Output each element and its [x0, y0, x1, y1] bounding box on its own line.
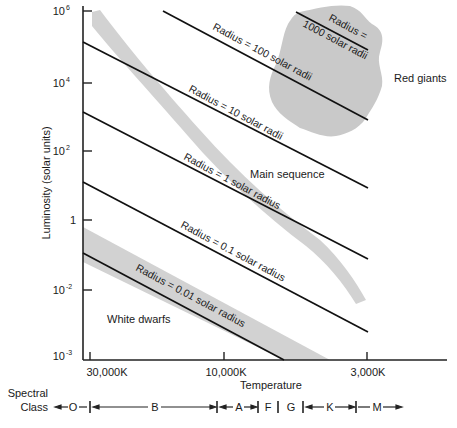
spectral-class-A: A [235, 401, 243, 413]
x-axis-label: Temperature [240, 379, 302, 391]
svg-text:10: 10 [53, 5, 65, 17]
main-sequence-label: Main sequence [250, 168, 325, 180]
spectral-class-F: F [265, 401, 272, 413]
spectral-class-M: M [372, 401, 381, 413]
svg-text:Class: Class [20, 401, 48, 413]
svg-text:-3: -3 [66, 349, 72, 356]
svg-text:10: 10 [53, 350, 65, 362]
svg-text:30,000K: 30,000K [87, 366, 129, 378]
svg-text:4: 4 [66, 76, 70, 83]
radius-0.01-line [83, 253, 284, 360]
radius-0.1-label: Radius = 0.1 solar radius [179, 218, 287, 283]
svg-text:2: 2 [66, 144, 70, 151]
svg-text:6: 6 [66, 4, 70, 11]
y-tick-labels: 10 6 10 4 10 2 1 10 -2 10 -3 [53, 4, 76, 362]
red-giants-label: Red giants [394, 72, 447, 84]
radius-1-label: Radius = 1 solar radius [182, 150, 283, 211]
svg-text:10: 10 [53, 77, 65, 89]
svg-text:10: 10 [53, 145, 65, 157]
spectral-class-B: B [151, 401, 158, 413]
white-dwarfs-label: White dwarfs [107, 313, 171, 325]
svg-text:-2: -2 [66, 283, 72, 290]
spectral-class-O: O [69, 401, 78, 413]
svg-text:10,000K: 10,000K [206, 366, 248, 378]
x-tick-labels: 30,000K 10,000K 3,000K [87, 366, 387, 378]
svg-text:3,000K: 3,000K [351, 366, 387, 378]
hr-diagram: 10 6 10 4 10 2 1 10 -2 10 -3 Luminosity … [0, 0, 457, 428]
svg-text:10: 10 [53, 284, 65, 296]
spectral-class-K: K [326, 401, 334, 413]
y-axis-label: Luminosity (solar units) [40, 126, 52, 239]
spectral-class-G: G [287, 401, 296, 413]
spectral-class-row: Spectral Class O [8, 387, 402, 413]
svg-text:1: 1 [70, 214, 76, 226]
red-giants-region [269, 5, 382, 136]
svg-text:Spectral: Spectral [8, 387, 48, 399]
